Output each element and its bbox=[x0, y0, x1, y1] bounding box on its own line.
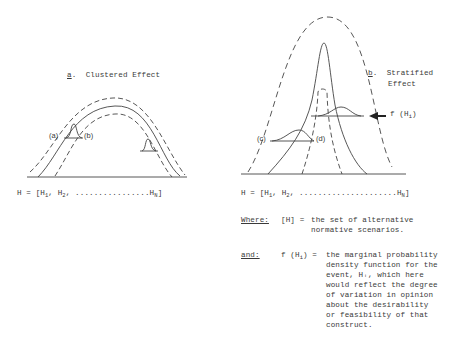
where-term: [H] = bbox=[281, 215, 304, 225]
label-b: (b) bbox=[84, 131, 93, 140]
panel-a-title-sep: . bbox=[72, 71, 86, 79]
panel-b-tall-solid-curve bbox=[268, 43, 367, 174]
label-a: (a) bbox=[49, 131, 58, 140]
and-line-4: would reflect the degree bbox=[326, 280, 438, 290]
label-c: (c) bbox=[257, 134, 266, 143]
panel-a-title: a. Clustered Effect bbox=[67, 70, 160, 80]
panel-b-narrow-dashed-curve bbox=[302, 89, 342, 174]
eq-b-dots: , ..................... bbox=[290, 189, 397, 197]
and-line-8: construct. bbox=[326, 320, 438, 330]
and-term-close: ) = bbox=[303, 251, 317, 259]
and-line-7: or feasibility of that bbox=[326, 310, 438, 320]
eq-b-close: ] bbox=[405, 189, 410, 197]
and-term-text: f (H bbox=[281, 251, 300, 259]
where-line-1: the set of alternative bbox=[311, 215, 413, 225]
eq-a-lhs: H = [H bbox=[17, 189, 45, 197]
panel-a-equation: H = [H1, H2, ................HN] bbox=[17, 188, 162, 201]
panel-a-title-text: Clustered Effect bbox=[86, 71, 161, 79]
panel-b-title-sep: . bbox=[373, 69, 387, 77]
eq-b-mid: , H bbox=[272, 189, 286, 197]
panel-b-title-line1: Stratified bbox=[387, 69, 434, 77]
and-keyword: and: bbox=[241, 250, 260, 260]
and-line-2: density function for the bbox=[326, 260, 438, 270]
eq-a-mid: , H bbox=[48, 189, 62, 197]
panel-b-outer-dashed-curve bbox=[248, 17, 392, 172]
and-line-6: about the desirability bbox=[326, 300, 438, 310]
panel-b-equation: H = [H1, H2, .....................HN] bbox=[241, 188, 410, 201]
and-line-5: of variation in opinion bbox=[326, 290, 438, 300]
panel-b-title: b. Stratified bbox=[368, 68, 433, 78]
where-keyword: Where: bbox=[241, 215, 269, 225]
and-description: the marginal probability density functio… bbox=[326, 250, 438, 330]
panel-a-inner-dashed-curve bbox=[55, 114, 172, 177]
arrow-icon bbox=[369, 112, 386, 120]
label-d: (d) bbox=[316, 134, 325, 143]
and-line-3: event, Hᵢ, which here bbox=[326, 270, 438, 280]
where-line-2: normative scenarios. bbox=[311, 225, 413, 235]
eq-a-close: ] bbox=[158, 189, 163, 197]
arrow-label: f (Hi) bbox=[390, 109, 417, 122]
eq-a-dots: , ................ bbox=[66, 189, 150, 197]
where-description: the set of alternative normative scenari… bbox=[311, 215, 413, 235]
arrow-label-close: ) bbox=[412, 110, 417, 118]
panel-a-solid-curve bbox=[38, 106, 180, 177]
arrow-label-text: f (H bbox=[390, 110, 409, 118]
and-term: f (Hi) = bbox=[281, 250, 317, 263]
panel-b-title-line2: Effect bbox=[388, 79, 416, 89]
eq-b-lhs: H = [H bbox=[241, 189, 269, 197]
and-line-1: the marginal probability bbox=[326, 250, 438, 260]
